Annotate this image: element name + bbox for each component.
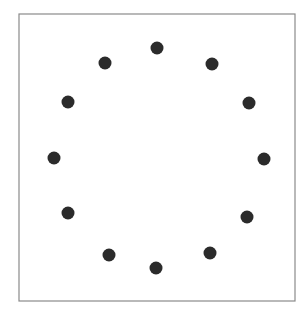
dot-9 <box>62 207 75 220</box>
dot-2 <box>206 58 219 71</box>
dot-12 <box>99 57 112 70</box>
dot-5 <box>241 211 254 224</box>
dot-circle-figure <box>0 0 308 321</box>
dot-4 <box>258 153 271 166</box>
dot-11 <box>62 96 75 109</box>
dot-10 <box>48 152 61 165</box>
dot-3 <box>243 97 256 110</box>
dot-1 <box>151 42 164 55</box>
dot-7 <box>150 262 163 275</box>
dot-6 <box>204 247 217 260</box>
dots-group <box>48 42 271 275</box>
dot-8 <box>103 249 116 262</box>
